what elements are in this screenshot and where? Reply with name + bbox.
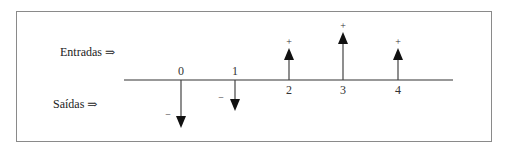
tick-label-3: 3 [340,83,346,98]
tick-label-1: 1 [232,64,238,79]
inflow-arrow-3 [338,32,348,80]
sign-marker-1: − [218,92,224,103]
inflow-arrow-4 [393,48,403,80]
tick-label-4: 4 [395,83,401,98]
sign-marker-4: + [395,36,401,47]
tick-label-2: 2 [286,83,292,98]
sign-marker-3: + [340,20,346,31]
inflows-label: Entradas ⇒ [60,45,115,60]
outflows-label: Saídas ⇒ [53,97,97,112]
cash-flow-diagram [0,0,508,149]
inflow-arrow-2 [284,48,294,80]
sign-marker-2: + [286,36,292,47]
tick-label-0: 0 [178,64,184,79]
outflow-arrow-1 [230,80,240,111]
outflow-arrow-0 [176,80,186,128]
sign-marker-0: − [165,109,171,120]
